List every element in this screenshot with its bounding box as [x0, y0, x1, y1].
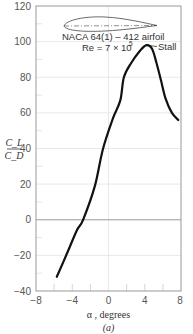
reynolds-exponent: 5: [129, 40, 133, 47]
reynolds-text: Re = 7 × 10: [82, 42, 132, 53]
y-label-numerator: C_L: [5, 137, 23, 148]
figure-caption: (a): [103, 322, 115, 334]
x-tick: 8: [177, 295, 183, 306]
y-tick: −20: [14, 250, 31, 261]
x-tick: 0: [106, 295, 112, 306]
x-tick: −4: [67, 295, 79, 306]
x-axis-label: α , degrees: [87, 309, 130, 320]
y-tick: 100: [14, 36, 31, 47]
y-tick: 80: [20, 72, 32, 83]
y-tick: 20: [20, 179, 32, 190]
y-tick: −40: [14, 286, 31, 297]
x-tick-labels: −8 −4 0 4 8: [30, 295, 183, 306]
reynolds-annotation: Re = 7 × 10 5: [82, 40, 133, 53]
y-tick: 60: [20, 107, 32, 118]
y-label-denominator: C_D: [5, 150, 25, 161]
y-tick: 120: [14, 1, 31, 12]
stall-annotation: Stall: [158, 41, 176, 52]
y-tick: 0: [25, 214, 31, 225]
x-tick: 4: [142, 295, 148, 306]
chart-svg: 120 100 80 60 40 20 0 −20 −40 −8 −4 0 4 …: [0, 0, 193, 334]
x-tick: −8: [30, 295, 42, 306]
airfoil-icon: [64, 17, 157, 32]
y-tick-labels: 120 100 80 60 40 20 0 −20 −40: [14, 1, 31, 297]
data-curve: [57, 45, 179, 277]
airfoil-name-annotation: NACA 64(1) – 412 airfoil: [62, 31, 164, 42]
